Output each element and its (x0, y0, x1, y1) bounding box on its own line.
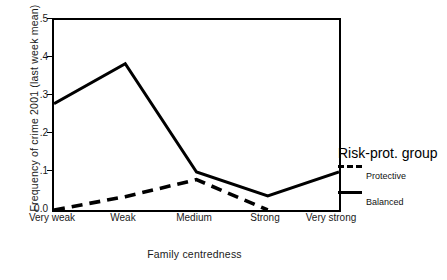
y-tick-label: .3 (26, 89, 48, 100)
y-tick-label: .4 (26, 51, 48, 62)
x-tick-label-very-weak: Very weak (29, 212, 75, 223)
x-tick-label-medium: Medium (176, 212, 212, 223)
legend-entry-label: Balanced (366, 197, 404, 207)
x-tick-label-very-strong: Very strong (306, 212, 357, 223)
x-tick-label-strong: Strong (250, 212, 279, 223)
line-chart-figure: Frequency of crime 2001 (last week mean)… (0, 0, 447, 280)
legend-title: Risk-prot. group (338, 146, 447, 161)
y-axis-tick-labels: .5 .4 .3 .2 .1 0.0 (24, 0, 48, 280)
legend-swatch-solid-line (338, 191, 362, 194)
x-tick-label-weak: Weak (110, 212, 135, 223)
y-tick-label: .5 (26, 13, 48, 24)
legend-entry-balanced: Balanced (338, 187, 447, 213)
data-lines-svg (54, 20, 339, 210)
y-tick-label: .1 (26, 165, 48, 176)
legend-entry-protective: Protective (338, 161, 447, 187)
plot-area (52, 18, 341, 212)
legend-swatch-dashed-line (338, 165, 362, 168)
legend: Risk-prot. group Protective Balanced (338, 146, 447, 213)
series-line-balanced (54, 64, 339, 196)
y-tick-label: .2 (26, 127, 48, 138)
legend-entry-label: Protective (366, 171, 406, 181)
x-axis-title: Family centredness (52, 248, 337, 260)
